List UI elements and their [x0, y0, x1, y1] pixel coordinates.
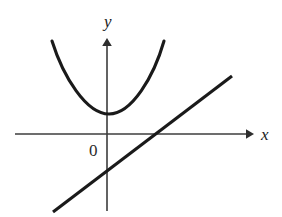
- figure-background: [0, 0, 282, 217]
- x-axis-label: x: [260, 125, 269, 144]
- math-figure: y x 0: [0, 0, 282, 217]
- origin-label: 0: [89, 141, 98, 160]
- plot-canvas: y x 0: [0, 0, 282, 217]
- y-axis-label: y: [102, 12, 112, 31]
